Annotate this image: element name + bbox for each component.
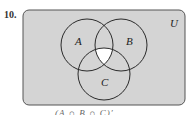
caption: (A ∩ B ∩ C)′ bbox=[55, 108, 114, 115]
set-b-label: B bbox=[126, 35, 133, 47]
set-c-label: C bbox=[101, 76, 109, 88]
universe-label: U bbox=[170, 17, 179, 29]
venn-diagram: A B C U bbox=[0, 0, 189, 115]
set-a-label: A bbox=[74, 35, 82, 47]
